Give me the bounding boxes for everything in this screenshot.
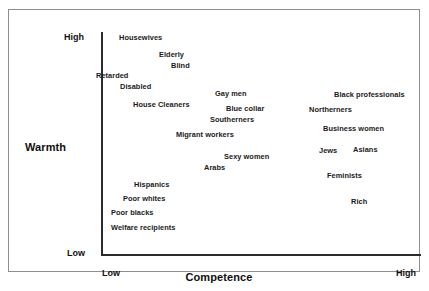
data-point-label: Blind xyxy=(171,62,190,69)
data-point-label: Business women xyxy=(323,125,384,132)
data-point-label: Blue collar xyxy=(226,105,264,112)
data-point-label: Northerners xyxy=(309,106,352,113)
data-point-label: Retarded xyxy=(96,72,128,79)
data-point-label: Jews xyxy=(319,147,337,154)
data-point-label: Hispanics xyxy=(134,181,169,188)
data-point-label: House Cleaners xyxy=(133,101,190,108)
y-axis-line xyxy=(101,32,103,256)
data-point-label: Welfare recipients xyxy=(111,224,175,231)
data-point-label: Black professionals xyxy=(334,91,405,98)
x-axis-tick-low: Low xyxy=(102,268,120,278)
data-point-label: Elderly xyxy=(159,51,184,58)
x-axis-tick-high: High xyxy=(396,268,416,278)
data-point-label: Sexy women xyxy=(224,153,269,160)
data-point-label: Rich xyxy=(351,198,367,205)
data-point-label: Poor whites xyxy=(123,195,165,202)
data-point-label: Gay men xyxy=(215,90,247,97)
data-point-label: Poor blacks xyxy=(111,209,153,216)
data-point-label: Asians xyxy=(353,146,378,153)
stereotype-content-model-chart: Warmth Competence High Low Low High Hous… xyxy=(0,0,429,291)
data-point-label: Arabs xyxy=(204,164,225,171)
x-axis-title: Competence xyxy=(185,271,252,283)
y-axis-title: Warmth xyxy=(25,141,66,153)
data-point-label: Migrant workers xyxy=(176,131,234,138)
data-point-label: Feminists xyxy=(327,172,362,179)
data-point-label: Disabled xyxy=(120,83,151,90)
x-axis-line xyxy=(101,254,421,256)
data-point-label: Housewives xyxy=(119,34,162,41)
y-axis-tick-high: High xyxy=(64,32,84,42)
y-axis-tick-low: Low xyxy=(67,248,85,258)
data-point-label: Southerners xyxy=(210,116,254,123)
chart-frame: Warmth Competence High Low Low High Hous… xyxy=(8,9,420,272)
